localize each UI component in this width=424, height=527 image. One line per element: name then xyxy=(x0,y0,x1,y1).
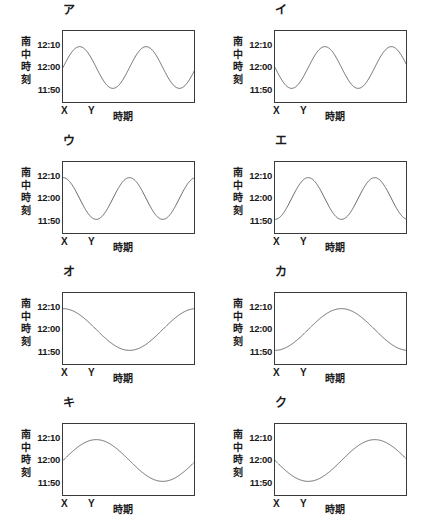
y-axis-title-char: 中 xyxy=(232,442,244,455)
x-marker-x: X xyxy=(273,236,280,247)
y-tick-label: 11:50 xyxy=(245,215,272,226)
y-axis-title-char: 時 xyxy=(232,323,244,336)
x-marker-x: X xyxy=(61,498,68,509)
panel-ka: カ 南 中 時 刻 12:10 12:00 11:50 X Y 時期 xyxy=(212,262,424,393)
y-tick-label: 12:00 xyxy=(245,61,272,72)
y-axis-title-char: 南 xyxy=(20,298,32,311)
y-axis-title-char: 南 xyxy=(232,298,244,311)
y-axis-title: 南 中 時 刻 xyxy=(20,167,32,217)
x-marker-y: Y xyxy=(300,498,307,509)
y-axis-title-char: 中 xyxy=(232,49,244,62)
y-axis-title-char: 時 xyxy=(20,323,32,336)
y-tick-label: 12:10 xyxy=(245,170,272,181)
panel-a: ア 南 中 時 刻 12:10 12:00 11:50 X Y 時期 xyxy=(0,0,212,131)
panel-i: イ 南 中 時 刻 12:10 12:00 11:50 X Y 時期 xyxy=(212,0,424,131)
panel-label: カ xyxy=(275,265,287,279)
x-axis-title: 時期 xyxy=(113,370,133,385)
panel-label: キ xyxy=(63,396,75,410)
panel-label: ウ xyxy=(63,134,75,148)
y-axis-title-char: 中 xyxy=(232,311,244,324)
panel-o: オ 南 中 時 刻 12:10 12:00 11:50 X Y 時期 xyxy=(0,262,212,393)
plot-area xyxy=(62,30,195,103)
x-axis-title: 時期 xyxy=(113,239,133,254)
y-axis-title-char: 時 xyxy=(232,61,244,74)
panel-label: エ xyxy=(275,134,287,148)
plot-area xyxy=(274,30,407,103)
y-tick-label: 12:00 xyxy=(245,192,272,203)
y-tick-label: 12:10 xyxy=(245,432,272,443)
panel-ki: キ 南 中 時 刻 12:10 12:00 11:50 X Y 時期 xyxy=(0,393,212,524)
x-axis-title: 時期 xyxy=(113,108,133,123)
panel-label: ア xyxy=(63,3,75,17)
y-axis-title-char: 刻 xyxy=(232,74,244,87)
y-tick-label: 12:10 xyxy=(245,301,272,312)
y-axis-title-char: 南 xyxy=(232,36,244,49)
y-axis-title-char: 中 xyxy=(20,180,32,193)
plot-area xyxy=(274,161,407,234)
y-tick-label: 12:00 xyxy=(245,454,272,465)
x-marker-y: Y xyxy=(88,105,95,116)
plot-area xyxy=(274,292,407,365)
panel-label: オ xyxy=(63,265,75,279)
y-axis-title-char: 南 xyxy=(20,167,32,180)
x-marker-y: Y xyxy=(88,367,95,378)
x-marker-x: X xyxy=(273,367,280,378)
y-tick-label: 12:00 xyxy=(245,323,272,334)
y-axis-title: 南 中 時 刻 xyxy=(20,36,32,86)
y-tick-label: 11:50 xyxy=(33,215,60,226)
y-axis-title: 南 中 時 刻 xyxy=(232,429,244,479)
plot-area xyxy=(62,292,195,365)
y-tick-label: 11:50 xyxy=(245,84,272,95)
y-axis-title: 南 中 時 刻 xyxy=(232,167,244,217)
plot-area xyxy=(62,423,195,496)
y-axis-title-char: 南 xyxy=(232,429,244,442)
panel-u: ウ 南 中 時 刻 12:10 12:00 11:50 X Y 時期 xyxy=(0,131,212,262)
y-tick-label: 11:50 xyxy=(33,346,60,357)
y-axis-title-char: 中 xyxy=(20,311,32,324)
y-axis-title-char: 時 xyxy=(20,454,32,467)
x-marker-y: Y xyxy=(88,236,95,247)
y-tick-label: 12:00 xyxy=(33,454,60,465)
y-axis-title: 南 中 時 刻 xyxy=(232,298,244,348)
y-axis-title-char: 中 xyxy=(20,49,32,62)
y-tick-label: 11:50 xyxy=(245,477,272,488)
y-axis-title-char: 南 xyxy=(20,429,32,442)
x-marker-x: X xyxy=(61,236,68,247)
y-tick-label: 12:10 xyxy=(33,39,60,50)
y-tick-label: 12:10 xyxy=(33,170,60,181)
y-axis-title-char: 刻 xyxy=(232,467,244,480)
panel-label: ク xyxy=(275,396,287,410)
x-marker-x: X xyxy=(61,367,68,378)
x-marker-y: Y xyxy=(300,367,307,378)
plot-area xyxy=(274,423,407,496)
y-tick-label: 12:00 xyxy=(33,323,60,334)
x-axis-title: 時期 xyxy=(325,370,345,385)
y-tick-label: 12:10 xyxy=(33,301,60,312)
panel-label: イ xyxy=(275,3,287,17)
y-axis-title-char: 刻 xyxy=(20,467,32,480)
y-axis-title-char: 刻 xyxy=(20,74,32,87)
y-tick-label: 11:50 xyxy=(33,84,60,95)
y-tick-label: 12:10 xyxy=(245,39,272,50)
y-axis-title-char: 中 xyxy=(232,180,244,193)
x-marker-y: Y xyxy=(88,498,95,509)
x-axis-title: 時期 xyxy=(325,501,345,516)
y-axis-title-char: 刻 xyxy=(20,336,32,349)
y-tick-label: 12:00 xyxy=(33,192,60,203)
y-axis-title: 南 中 時 刻 xyxy=(20,298,32,348)
panel-e: エ 南 中 時 刻 12:10 12:00 11:50 X Y 時期 xyxy=(212,131,424,262)
plot-area xyxy=(62,161,195,234)
y-axis-title-char: 刻 xyxy=(232,205,244,218)
y-axis-title-char: 南 xyxy=(20,36,32,49)
y-tick-label: 12:10 xyxy=(33,432,60,443)
x-marker-y: Y xyxy=(300,236,307,247)
y-axis-title-char: 刻 xyxy=(20,205,32,218)
y-axis-title-char: 時 xyxy=(232,454,244,467)
y-axis-title-char: 時 xyxy=(20,192,32,205)
x-marker-x: X xyxy=(273,498,280,509)
y-axis-title: 南 中 時 刻 xyxy=(20,429,32,479)
y-axis-title-char: 時 xyxy=(20,61,32,74)
y-tick-label: 11:50 xyxy=(33,477,60,488)
x-marker-x: X xyxy=(273,105,280,116)
panel-ku: ク 南 中 時 刻 12:10 12:00 11:50 X Y 時期 xyxy=(212,393,424,524)
